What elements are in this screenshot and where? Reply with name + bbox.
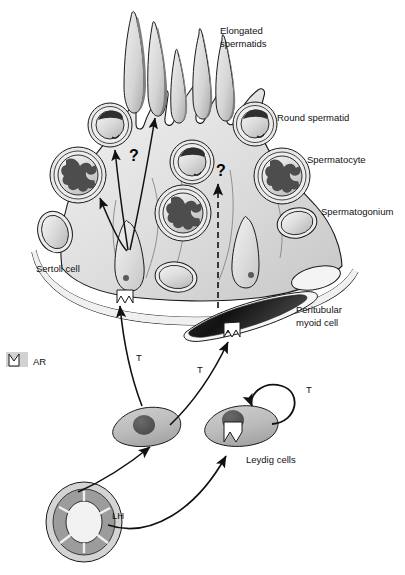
label-t-autocrine: T xyxy=(306,384,312,395)
label-spermatocyte: Spermatocyte xyxy=(307,154,366,165)
label-elongated-spermatids-line1: Elongated xyxy=(220,25,263,36)
label-ar: AR xyxy=(33,356,46,367)
spermatocyte xyxy=(254,148,310,204)
pituitary-gland xyxy=(46,482,122,562)
label-elongated-spermatids-line2: spermatids xyxy=(220,38,267,49)
diagram-svg: ? ? xyxy=(0,0,405,575)
elongated-spermatid xyxy=(171,49,187,123)
ar-legend: AR xyxy=(6,352,46,367)
spermatocyte xyxy=(50,147,106,203)
question-mark-left: ? xyxy=(129,147,139,164)
elongated-spermatid xyxy=(148,22,167,116)
label-peritubular-myoid-line2: myoid cell xyxy=(296,317,338,328)
label-t-myoid: T xyxy=(197,364,203,375)
label-t-sertoli: T xyxy=(136,352,142,363)
spermatocyte xyxy=(155,185,211,241)
sertoli-nucleolus xyxy=(123,275,129,281)
elongated-spermatid xyxy=(124,12,146,113)
leydig-cell-right xyxy=(205,406,278,447)
elongated-spermatid-group xyxy=(124,12,235,123)
androgen-receptor-sertoli xyxy=(117,290,133,303)
round-spermatid xyxy=(170,140,214,184)
label-leydig-cells: Leydig cells xyxy=(246,454,296,465)
sertoli-nucleolus xyxy=(248,272,254,278)
figure-canvas: ? ? xyxy=(0,0,405,575)
label-round-spermatid: Round spermatid xyxy=(277,112,349,123)
label-lh: LH xyxy=(112,510,124,521)
leydig-nucleus xyxy=(133,415,155,435)
leydig-cell-left xyxy=(113,407,181,446)
question-mark-right: ? xyxy=(216,162,226,179)
round-spermatid xyxy=(88,103,132,147)
arrow-lh-to-leydig-right xyxy=(108,456,226,529)
label-spermatogonium: Spermatogonium xyxy=(321,206,393,217)
round-spermatid xyxy=(233,102,277,146)
label-peritubular-myoid-line1: Peritubular xyxy=(296,304,342,315)
label-sertoli-cell: Sertoli cell xyxy=(36,263,80,274)
elongated-spermatid xyxy=(193,29,212,119)
